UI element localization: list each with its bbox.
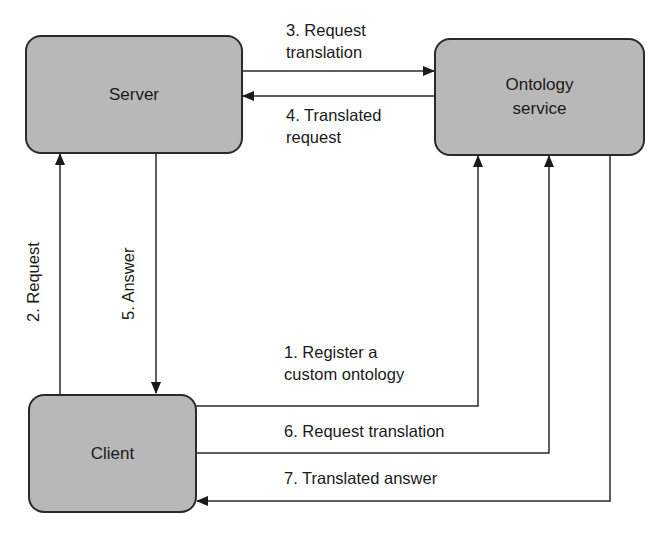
edge-label-3-line2: translation <box>286 41 366 63</box>
edge-label-3-line1: 3. Request <box>286 19 366 41</box>
server-node: Server <box>25 35 243 154</box>
edge-label-5: 5. Answer <box>118 248 138 320</box>
edge-label-4-line1: 4. Translated <box>286 104 381 126</box>
edge-label-1-line2: custom ontology <box>284 363 404 385</box>
ontology-label-line1: Ontology <box>505 73 573 97</box>
edge-label-6: 6. Request translation <box>284 420 445 442</box>
edge-label-7: 7. Translated answer <box>284 467 437 489</box>
edge-label-1: 1. Register a custom ontology <box>284 341 404 385</box>
ontology-label-line2: service <box>513 97 567 121</box>
server-label: Server <box>109 83 159 107</box>
edge-label-3: 3. Request translation <box>286 19 366 63</box>
arrow-request-translation-from-client <box>196 156 549 453</box>
ontology-service-node: Ontology service <box>434 38 645 156</box>
edge-label-1-line1: 1. Register a <box>284 341 404 363</box>
edge-label-4: 4. Translated request <box>286 104 381 148</box>
client-label: Client <box>91 442 134 466</box>
arrow-translated-answer-to-client <box>197 155 610 501</box>
edge-label-4-line2: request <box>286 126 381 148</box>
sequence-diagram: Server Ontology service Client 3. Reques… <box>0 0 663 541</box>
edge-label-2: 2. Request <box>23 242 43 322</box>
client-node: Client <box>28 394 197 513</box>
